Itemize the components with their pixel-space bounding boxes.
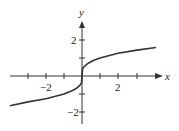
y-axis-label: y: [78, 6, 84, 18]
x-axis-label: x: [164, 70, 170, 82]
x-tick-label-neg2: −2: [40, 81, 52, 93]
y-axis-arrow-icon: [79, 21, 85, 28]
y-tick-label-2: 2: [71, 34, 77, 46]
x-tick-label-2: 2: [115, 81, 121, 93]
cube-root-curve: [10, 48, 156, 106]
y-tick-label-neg2: −2: [67, 106, 79, 118]
cube-root-graph: −2 2 2 −2 x y: [0, 0, 179, 131]
x-axis-arrow-icon: [155, 73, 163, 79]
